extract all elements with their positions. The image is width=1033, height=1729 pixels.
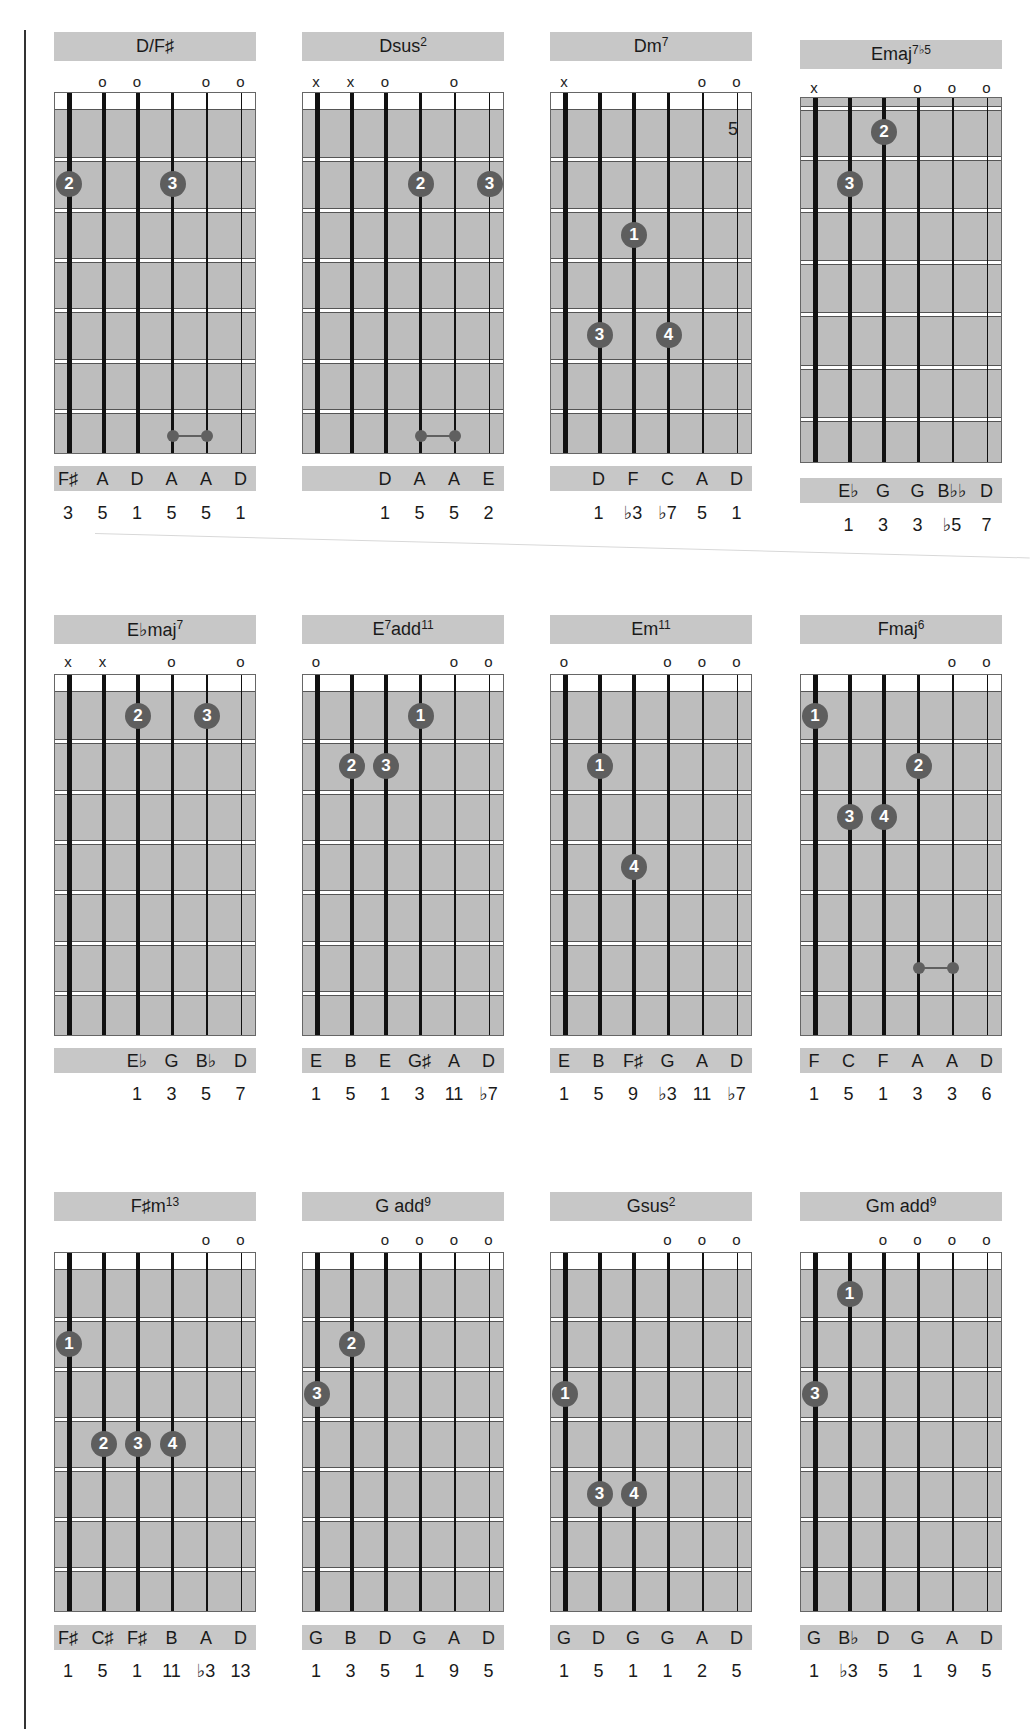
interval-row: 135195: [302, 1660, 504, 1682]
note-name: G: [866, 479, 900, 503]
interval-degree: 2: [472, 502, 506, 524]
interval-degree: ♭7: [651, 502, 685, 524]
interval-degree: 3: [935, 1083, 969, 1105]
interval-degree: ♭3: [189, 1660, 223, 1682]
fret-line: [551, 890, 751, 895]
fretboard: 1234: [54, 1252, 256, 1612]
nut: [303, 1253, 503, 1270]
interval-degree: 1: [120, 1660, 154, 1682]
fret-line: [551, 359, 751, 364]
nut: [801, 675, 1001, 692]
fret-line: [303, 840, 503, 845]
interval-degree: 5: [189, 502, 223, 524]
interval-degree: 1: [866, 1083, 900, 1105]
open-string-marker: o: [727, 654, 747, 670]
open-mute-markers: xxoo: [302, 74, 504, 90]
interval-degree: 1: [901, 1660, 935, 1682]
nut: [801, 1253, 1001, 1270]
interval-degree: 5: [832, 1083, 866, 1105]
note-name: F♯: [51, 467, 85, 491]
note-name: D: [224, 1049, 258, 1073]
note-name: B♭: [832, 1626, 866, 1650]
nut: [55, 675, 255, 692]
fretboard: 23: [302, 1252, 504, 1612]
guitar-string: [136, 93, 140, 453]
finger-dot: 4: [656, 322, 682, 348]
guitar-string: [350, 1253, 354, 1611]
guitar-string: [489, 1253, 491, 1611]
interval-row: 15111♭313: [54, 1660, 256, 1682]
finger-dot: 2: [339, 753, 365, 779]
note-name: A: [935, 1049, 969, 1073]
note-name: A: [86, 467, 120, 491]
barre-dot: [913, 962, 925, 974]
interval-degree: ♭7: [472, 1083, 506, 1105]
chord-superscript: 2: [420, 35, 427, 49]
fret-line: [551, 1317, 751, 1322]
guitar-string: [241, 93, 243, 453]
interval-row: 1♭3♭751: [550, 502, 752, 524]
guitar-string: [987, 675, 989, 1035]
guitar-string: [702, 675, 704, 1035]
interval-degree: 1: [120, 1083, 154, 1105]
chord-name: Dsus: [379, 36, 420, 57]
note-name: A: [685, 1049, 719, 1073]
interval-degree: 9: [616, 1083, 650, 1105]
chord-title: E7add11: [302, 615, 504, 644]
interval-row: 1552: [302, 502, 504, 524]
chord-superscript: 7♭5: [912, 43, 931, 57]
guitar-string: [882, 98, 886, 462]
fret-line: [303, 157, 503, 162]
guitar-string: [987, 1253, 989, 1611]
interval-degree: 5: [155, 502, 189, 524]
note-name: A: [685, 467, 719, 491]
note-names-bar: E♭GB♭D: [54, 1048, 256, 1073]
note-name: F: [616, 467, 650, 491]
interval-degree: 5: [368, 1660, 402, 1682]
interval-degree: 1: [403, 1660, 437, 1682]
chord-name: Emaj: [871, 44, 912, 65]
note-name: D: [582, 1626, 616, 1650]
interval-row: 151336: [800, 1083, 1002, 1105]
open-string-marker: o: [873, 1232, 893, 1248]
note-name: F♯: [120, 1626, 154, 1650]
fret-line: [303, 790, 503, 795]
interval-degree: 1: [368, 1083, 402, 1105]
interval-row: 1♭35195: [800, 1660, 1002, 1682]
interval-degree: ♭7: [720, 1083, 754, 1105]
note-names-bar: GB♭DGAD: [800, 1625, 1002, 1650]
guitar-string: [315, 675, 320, 1035]
fret-line: [551, 208, 751, 213]
note-name: D: [720, 467, 754, 491]
open-string-marker: o: [231, 74, 251, 90]
interval-row: 159♭311♭7: [550, 1083, 752, 1105]
fret-line: [551, 941, 751, 946]
chord-superscript: 9: [930, 1195, 937, 1209]
chord-title: Fmaj6: [800, 615, 1002, 644]
note-name: F: [797, 1049, 831, 1073]
note-names-bar: GBDGAD: [302, 1625, 504, 1650]
guitar-string: [952, 1253, 954, 1611]
chord-superscript: 9: [424, 1195, 431, 1209]
note-name: G: [797, 1626, 831, 1650]
interval-degree: 1: [616, 1660, 650, 1682]
interval-row: 133♭57: [800, 514, 1002, 536]
guitar-string: [667, 675, 670, 1035]
fret-line: [55, 1417, 255, 1422]
interval-degree: 1: [832, 514, 866, 536]
note-name: B: [155, 1626, 189, 1650]
interval-degree: 3: [866, 514, 900, 536]
interval-degree: 1: [299, 1660, 333, 1682]
note-names-bar: GDGGAD: [550, 1625, 752, 1650]
note-name: A: [155, 467, 189, 491]
interval-degree: 1: [547, 1083, 581, 1105]
guitar-string: [384, 1253, 388, 1611]
interval-degree: 1: [120, 502, 154, 524]
guitar-string: [952, 675, 954, 1035]
finger-dot: 3: [837, 171, 863, 197]
guitar-string: [563, 93, 568, 453]
chord-title: Emaj7♭5: [800, 40, 1002, 69]
open-string-marker: o: [658, 1232, 678, 1248]
fret-line: [801, 208, 1001, 213]
interval-row: 151125: [550, 1660, 752, 1682]
